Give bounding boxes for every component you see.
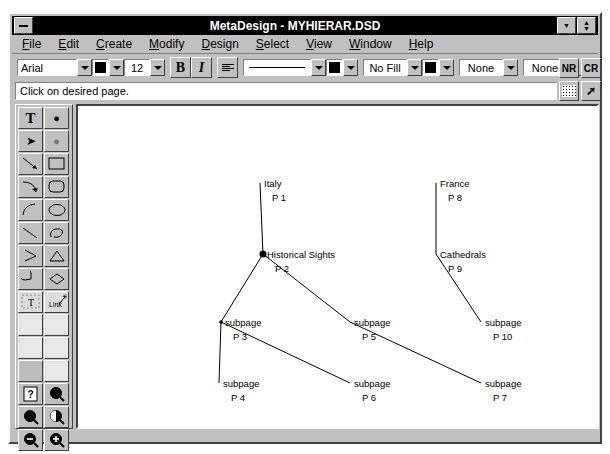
magnifier-half-tool[interactable] — [44, 406, 69, 428]
bold-button[interactable]: B — [170, 57, 191, 78]
line-color-swatch[interactable] — [326, 59, 343, 76]
italic-button[interactable]: I — [191, 57, 212, 78]
node-title: subpage — [354, 378, 390, 389]
menu-create[interactable]: Create — [96, 37, 132, 51]
diagram-node[interactable]: subpageP 7 — [485, 378, 521, 403]
ellipse-tool[interactable] — [44, 199, 69, 221]
line-arrow-tool[interactable] — [18, 153, 43, 175]
palette-row — [18, 222, 70, 244]
texture-tool-c[interactable] — [18, 337, 43, 359]
menu-edit[interactable]: Edit — [58, 37, 79, 51]
line-style-dropdown[interactable] — [311, 59, 326, 76]
font-size-input[interactable]: 12 — [124, 59, 150, 76]
palette-row — [18, 268, 70, 290]
freeform-tool[interactable] — [44, 222, 69, 244]
rounded-rect-tool[interactable] — [44, 176, 69, 198]
text-color-dropdown[interactable] — [109, 59, 124, 76]
grid-button[interactable] — [559, 81, 579, 101]
arc-arrow-tool[interactable] — [18, 176, 43, 198]
filled-circle-tool[interactable]: ● — [44, 107, 69, 129]
sketch-icon — [46, 362, 68, 380]
font-size-dropdown[interactable] — [150, 59, 165, 76]
angle-tool[interactable] — [18, 245, 43, 267]
text-frame-icon: T — [21, 294, 41, 310]
text-color-swatch[interactable] — [92, 59, 109, 76]
diagonal-line-icon — [21, 225, 41, 241]
curve-icon — [21, 202, 41, 218]
menu-help[interactable]: Help — [409, 37, 434, 51]
font-name-input[interactable]: Arial — [17, 59, 77, 76]
fill-color-swatch[interactable] — [422, 59, 439, 76]
texture-tool-d[interactable] — [44, 337, 69, 359]
hollow-circle-tool[interactable]: ● — [44, 130, 69, 152]
zoom-in-tool[interactable] — [44, 429, 69, 451]
diagram-node[interactable]: Historical SightsP 2 — [260, 249, 336, 274]
menu-window[interactable]: Window — [349, 37, 392, 51]
rectangle-tool[interactable] — [44, 153, 69, 175]
fill-color-dropdown[interactable] — [439, 59, 454, 76]
node-title: subpage — [225, 317, 261, 328]
minimize-button[interactable]: ▼ — [557, 17, 576, 34]
align-button[interactable] — [217, 57, 238, 78]
text-tool[interactable]: T — [18, 107, 43, 129]
chevron-down-icon — [154, 66, 162, 70]
diagram-node[interactable]: ItalyP 1 — [264, 178, 286, 203]
curve-tool[interactable] — [18, 199, 43, 221]
text-frame-tool[interactable]: T — [18, 291, 43, 313]
diagram-node[interactable]: subpageP 10 — [485, 317, 521, 342]
restore-button[interactable]: ▲▼ — [577, 17, 596, 34]
font-name-dropdown[interactable] — [77, 59, 92, 76]
nr-button[interactable]: NR — [559, 58, 579, 78]
diagram-node[interactable]: FranceP 8 — [440, 178, 470, 203]
node-title: subpage — [485, 317, 521, 328]
diagram-edge[interactable] — [221, 254, 263, 322]
window-menu-button[interactable] — [14, 17, 33, 34]
node-page: P 10 — [493, 331, 512, 342]
node-title: Italy — [264, 178, 282, 189]
line-color-dropdown[interactable] — [343, 59, 358, 76]
pointer-tool[interactable]: ➤ — [18, 130, 43, 152]
svg-text:✳: ✳ — [62, 294, 67, 300]
menu-view[interactable]: View — [306, 37, 332, 51]
zoom-out-tool[interactable] — [18, 429, 43, 451]
menu-modify[interactable]: Modify — [149, 37, 184, 51]
menu-file[interactable]: File — [22, 37, 41, 51]
cr-button[interactable]: CR — [581, 58, 601, 78]
node-title: France — [440, 178, 470, 189]
diagonal-line-tool[interactable] — [18, 222, 43, 244]
triangle-icon — [48, 249, 66, 263]
fill-style-dropdown[interactable] — [407, 59, 422, 76]
menu-select[interactable]: Select — [256, 37, 289, 51]
arrow-start-dropdown[interactable] — [503, 59, 518, 76]
link-tool[interactable]: Link✳ — [44, 291, 69, 313]
menu-design[interactable]: Design — [201, 37, 238, 51]
diagram-edge[interactable] — [260, 183, 263, 254]
pie-tool[interactable] — [18, 268, 43, 290]
line-group — [243, 59, 358, 76]
node-page: P 5 — [362, 331, 376, 342]
help-tool[interactable]: ? — [18, 383, 43, 405]
fill-style-input[interactable]: No Fill — [363, 59, 407, 76]
node-page: P 2 — [275, 263, 289, 274]
figure-tool[interactable] — [18, 360, 43, 382]
node-marker — [260, 251, 267, 258]
magnifier-tool[interactable] — [44, 383, 69, 405]
arrow-start-input[interactable]: None — [459, 59, 503, 76]
hierarchy-diagram[interactable]: ItalyP 1Historical SightsP 2subpageP 3su… — [78, 106, 597, 427]
palette-row: ? — [18, 383, 70, 405]
node-page: P 3 — [233, 331, 247, 342]
sketch-tool[interactable] — [44, 360, 69, 382]
triangle-tool[interactable] — [44, 245, 69, 267]
diagram-node[interactable]: subpageP 6 — [354, 378, 390, 403]
texture-tool-a[interactable] — [18, 314, 43, 336]
freeform-icon — [48, 226, 66, 240]
line-style-preview[interactable] — [243, 59, 311, 76]
angle-icon — [21, 248, 41, 264]
magnifier-dark-tool[interactable] — [18, 406, 43, 428]
pointer-button[interactable]: ➚ — [581, 81, 601, 101]
diagram-node[interactable]: subpageP 4 — [223, 378, 259, 403]
diagram-edge[interactable] — [219, 322, 221, 383]
diamond-tool[interactable] — [44, 268, 69, 290]
design-canvas[interactable]: ItalyP 1Historical SightsP 2subpageP 3su… — [76, 104, 599, 429]
texture-tool-b[interactable] — [44, 314, 69, 336]
